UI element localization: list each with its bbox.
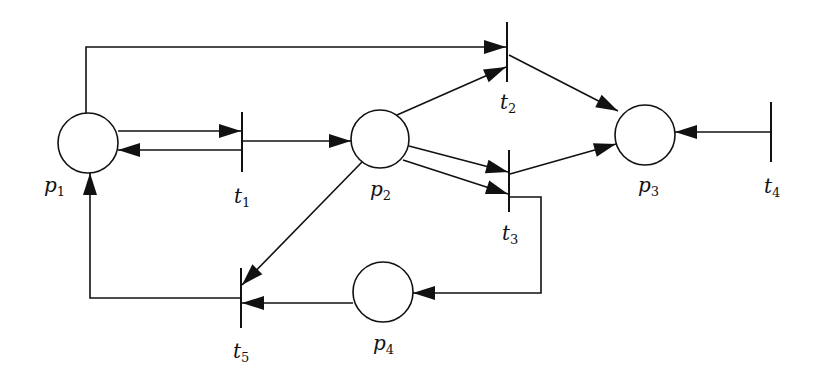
label-p4: p4 [373,331,394,357]
arrowhead-icon [593,143,616,156]
label-t1: t1 [234,184,250,210]
arc-p2-to-t3 [409,146,508,173]
arc-t1-to-p2 [243,134,351,148]
label-p2: p2 [370,177,391,203]
arrowhead-icon [485,181,508,194]
arc-t2-to-p3 [509,55,618,111]
arrowhead-icon [242,296,264,310]
arrowhead-icon [329,134,351,148]
arc-p2-to-t5 [242,162,362,285]
label-t2: t2 [500,90,516,116]
transitions-group [241,22,771,328]
arrowhead-icon [484,40,506,54]
arc-t3-to-p4 [413,197,541,300]
arcs-group [83,40,770,310]
arc-p1-to-t1 [118,124,241,138]
arrowhead-icon [595,95,618,111]
place-p2 [351,110,409,168]
arrowhead-icon [83,173,97,195]
arc-p2-to-t2 [397,67,506,115]
label-p1: p1 [44,173,65,199]
arrowhead-icon [219,124,241,138]
places-group [58,105,675,322]
arc-t5-to-p1 [83,173,240,298]
place-p4 [353,262,413,322]
label-t5: t5 [233,339,249,365]
arrowhead-icon [485,160,508,174]
arc-t4-to-p3 [675,125,770,139]
arc-p1-to-t2 [86,40,506,113]
arc-t1-to-p1 [118,143,241,157]
arrowhead-icon [675,125,697,139]
petri-net-diagram: p1p2p3p4t1t2t3t4t5 [0,0,822,378]
arc-t3-to-p3 [510,143,616,174]
place-p3 [615,105,675,165]
arrowhead-icon [413,286,435,300]
arrowhead-icon [118,143,140,157]
arc-p4-to-t5 [242,296,353,310]
label-t4: t4 [764,174,780,200]
arrowhead-icon [483,67,506,82]
place-p1 [58,113,118,173]
label-p3: p3 [638,173,659,199]
label-t3: t3 [502,221,518,247]
